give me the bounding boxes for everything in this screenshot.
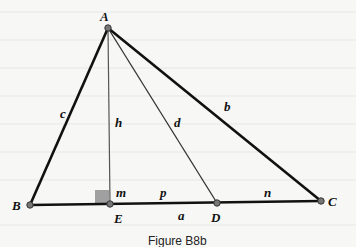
side-a bbox=[30, 201, 321, 205]
side-c bbox=[30, 28, 108, 205]
right-angle-marker bbox=[95, 190, 109, 204]
label-p: p bbox=[159, 185, 167, 200]
side-b bbox=[108, 28, 321, 201]
label-A: A bbox=[99, 9, 109, 24]
label-b: b bbox=[224, 99, 231, 114]
point-A bbox=[105, 25, 111, 31]
label-C: C bbox=[328, 194, 337, 209]
triangle-diagram: A B C D E c b h d m p n a Figure B8b bbox=[0, 0, 356, 247]
point-E bbox=[107, 201, 113, 207]
label-h: h bbox=[115, 115, 122, 130]
altitude-h bbox=[108, 28, 110, 204]
point-D bbox=[214, 200, 220, 206]
label-n: n bbox=[264, 185, 271, 200]
label-B: B bbox=[11, 198, 21, 213]
label-D: D bbox=[210, 210, 221, 225]
label-d: d bbox=[174, 115, 181, 130]
label-m: m bbox=[116, 185, 126, 200]
label-a: a bbox=[178, 208, 185, 223]
segment-d bbox=[108, 28, 217, 203]
point-B bbox=[27, 202, 33, 208]
label-E: E bbox=[113, 211, 123, 226]
figure-caption: Figure B8b bbox=[148, 234, 207, 247]
point-C bbox=[318, 198, 324, 204]
label-c: c bbox=[60, 106, 66, 121]
